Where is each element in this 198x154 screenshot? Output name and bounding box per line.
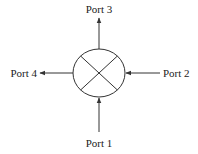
port1-label: Port 1 <box>86 137 113 149</box>
coupler-diagram: Port 3 Port 4 Port 2 Port 1 <box>0 0 198 154</box>
coupler-symbol <box>73 49 125 97</box>
port3-label: Port 3 <box>86 3 113 15</box>
port4-label: Port 4 <box>10 67 37 79</box>
port2-label: Port 2 <box>163 67 190 79</box>
